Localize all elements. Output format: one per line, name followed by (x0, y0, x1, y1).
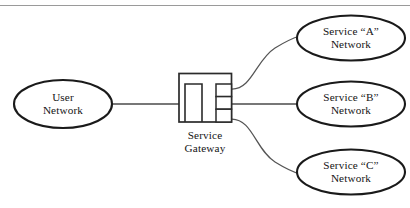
node-service-gateway[interactable]: Service Gateway (179, 74, 232, 155)
user-network-label-line2: Network (43, 104, 83, 116)
node-service-c-network[interactable]: Service “C” Network (297, 150, 405, 195)
node-service-b-network[interactable]: Service “B” Network (297, 82, 405, 127)
service-a-label-line2: Network (331, 38, 371, 50)
service-c-label-line2: Network (331, 172, 371, 184)
diagram-canvas: User Network Service Gateway Service “A”… (0, 0, 410, 208)
node-user-network[interactable]: User Network (14, 80, 112, 128)
service-b-label-line1: Service “B” (323, 91, 378, 103)
gateway-label-line1: Service (188, 129, 223, 141)
link-gateway-to-service-c (232, 119, 300, 174)
user-network-label-line1: User (52, 91, 74, 103)
service-a-label-line1: Service “A” (323, 25, 379, 37)
service-c-label-line1: Service “C” (323, 159, 378, 171)
gateway-port-1 (216, 84, 232, 97)
node-service-a-network[interactable]: Service “A” Network (297, 16, 405, 61)
network-diagram-figure: User Network Service Gateway Service “A”… (0, 0, 410, 208)
link-gateway-to-service-a (232, 36, 300, 89)
gateway-port-2 (216, 97, 232, 110)
service-b-label-line2: Network (331, 104, 371, 116)
gateway-label-line2: Gateway (185, 142, 226, 154)
gateway-port-3 (216, 109, 232, 122)
